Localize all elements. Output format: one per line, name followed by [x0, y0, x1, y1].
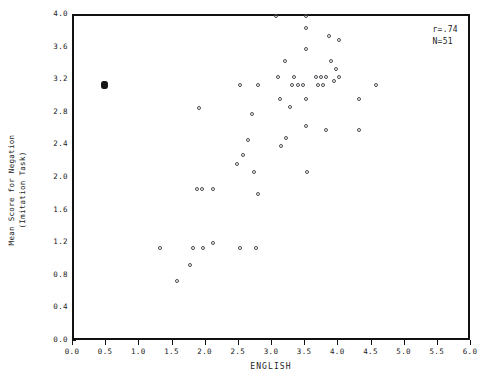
- data-point: [296, 83, 300, 87]
- y-tick-label: 1.2: [28, 238, 68, 246]
- data-point: [195, 187, 199, 191]
- data-point: [316, 83, 320, 87]
- y-tick-label: 0.8: [28, 271, 68, 279]
- data-point: [304, 47, 308, 51]
- data-point: [241, 153, 245, 157]
- data-point: [334, 67, 338, 71]
- x-tick-mark: [470, 340, 471, 345]
- data-point: [304, 14, 308, 18]
- data-points-layer: [74, 16, 468, 338]
- data-point: [337, 38, 341, 42]
- data-point: [319, 75, 323, 79]
- data-point: [304, 124, 308, 128]
- data-point: [211, 241, 215, 245]
- data-point: [324, 75, 328, 79]
- y-tick-label: 3.2: [28, 75, 68, 83]
- data-point: [327, 34, 331, 38]
- x-tick-mark: [72, 340, 73, 345]
- plot-area: r=.74N=51: [72, 14, 470, 340]
- data-point: [235, 162, 239, 166]
- data-point: [374, 83, 378, 87]
- y-axis-title: Mean Score for Negation (Imitation Task): [4, 110, 30, 270]
- y-tick-label: 0.4: [28, 303, 68, 311]
- y-axis-title-line-2: (Imitation Task): [17, 135, 28, 246]
- data-point: [175, 279, 179, 283]
- data-point: [276, 75, 280, 79]
- data-point: [288, 105, 292, 109]
- x-axis-title: ENGLISH: [72, 362, 470, 371]
- data-point: [158, 246, 162, 250]
- y-tick-label: 4.0: [28, 10, 68, 18]
- data-point: [197, 106, 201, 110]
- data-point: [200, 187, 204, 191]
- data-point: [283, 59, 287, 63]
- data-point: [337, 75, 341, 79]
- data-point: [321, 83, 325, 87]
- stats-annotation: r=.74N=51: [432, 24, 458, 48]
- y-tick-label: 2.4: [28, 140, 68, 148]
- data-point: [305, 170, 309, 174]
- x-tick-mark: [172, 340, 173, 345]
- x-tick-mark: [205, 340, 206, 345]
- data-point: [254, 246, 258, 250]
- x-tick-label: 6.0: [450, 347, 490, 356]
- data-point: [329, 59, 333, 63]
- data-point: [238, 83, 242, 87]
- data-point: [256, 83, 260, 87]
- y-tick-label: 3.6: [28, 43, 68, 51]
- data-point: [238, 246, 242, 250]
- data-point: [188, 263, 192, 267]
- x-tick-mark: [138, 340, 139, 345]
- data-point: [101, 81, 108, 89]
- data-point: [256, 192, 260, 196]
- data-point: [201, 246, 205, 250]
- data-point: [274, 14, 278, 18]
- x-tick-mark: [371, 340, 372, 345]
- data-point: [211, 187, 215, 191]
- y-axis-title-lines: Mean Score for Negation (Imitation Task): [6, 135, 28, 246]
- x-tick-mark: [271, 340, 272, 345]
- x-tick-mark: [437, 340, 438, 345]
- data-point: [304, 97, 308, 101]
- correlation-annotation: r=.74: [432, 24, 458, 36]
- x-tick-mark: [404, 340, 405, 345]
- scatter-plot-figure: Mean Score for Negation (Imitation Task)…: [0, 0, 491, 379]
- data-point: [304, 26, 308, 30]
- data-point: [357, 128, 361, 132]
- x-tick-mark: [337, 340, 338, 345]
- y-tick-label: 0.0: [28, 336, 68, 344]
- data-point: [290, 83, 294, 87]
- data-point: [301, 83, 305, 87]
- sample-size-annotation: N=51: [432, 36, 458, 48]
- data-point: [314, 75, 318, 79]
- y-tick-label: 2.8: [28, 108, 68, 116]
- x-tick-mark: [304, 340, 305, 345]
- data-point: [278, 97, 282, 101]
- data-point: [250, 112, 254, 116]
- data-point: [284, 136, 288, 140]
- x-tick-mark: [105, 340, 106, 345]
- y-axis-tick-labels: 0.00.40.81.21.62.02.42.83.23.64.0: [28, 14, 68, 340]
- data-point: [246, 138, 250, 142]
- data-point: [252, 170, 256, 174]
- y-tick-label: 1.6: [28, 206, 68, 214]
- data-point: [324, 128, 328, 132]
- data-point: [357, 97, 361, 101]
- data-point: [332, 79, 336, 83]
- x-tick-mark: [238, 340, 239, 345]
- y-axis-title-line-1: Mean Score for Negation: [6, 135, 17, 246]
- data-point: [279, 144, 283, 148]
- data-point: [292, 75, 296, 79]
- data-point: [191, 246, 195, 250]
- y-tick-label: 2.0: [28, 173, 68, 181]
